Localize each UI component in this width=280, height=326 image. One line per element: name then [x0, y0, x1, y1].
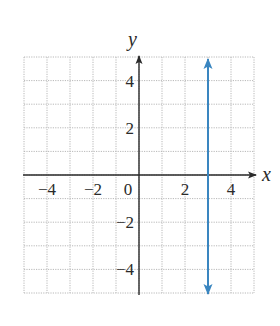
x-tick-label: −2 [84, 180, 102, 199]
x-tick-label: −4 [38, 180, 57, 199]
coordinate-plane: −4−2024−4−224 x y [0, 0, 280, 326]
y-axis-label: y [126, 28, 137, 51]
x-tick-label: 0 [124, 180, 133, 199]
y-tick-label: −4 [116, 260, 135, 279]
x-tick-label: 4 [227, 180, 236, 199]
y-tick-label: 2 [126, 119, 135, 138]
x-axis-label: x [261, 163, 271, 185]
y-tick-label: −2 [116, 213, 134, 232]
x-tick-label: 2 [181, 180, 190, 199]
y-tick-label: 4 [126, 72, 135, 91]
axes [23, 56, 256, 295]
